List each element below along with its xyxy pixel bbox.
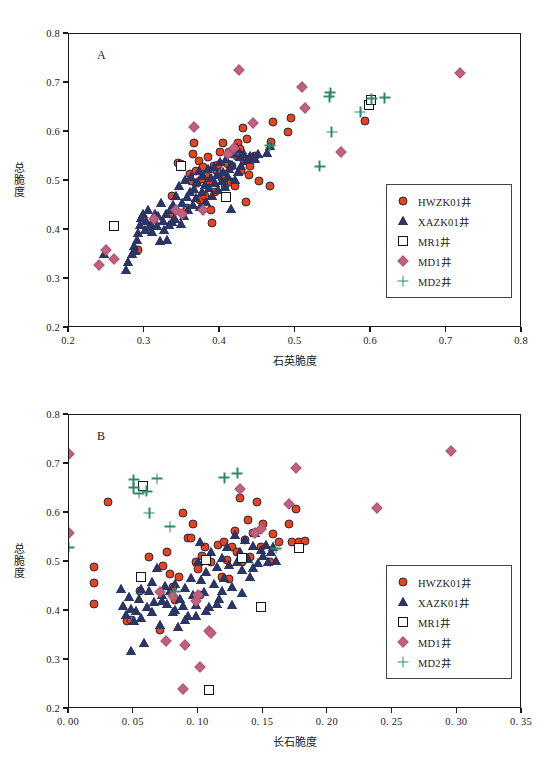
- plus-marker: [144, 508, 155, 519]
- triangle-marker: [194, 166, 204, 175]
- circle-marker: [259, 519, 268, 528]
- circle-marker: [265, 182, 274, 191]
- triangle-marker: [253, 149, 263, 158]
- circle-marker: [399, 578, 408, 587]
- triangle-marker: [156, 198, 166, 207]
- circle-marker: [249, 154, 258, 163]
- triangle-marker: [199, 587, 209, 596]
- legend-swatch: [395, 213, 411, 229]
- legend-item-md1[interactable]: MD1井: [395, 251, 502, 271]
- triangle-marker: [171, 191, 181, 200]
- diamond-marker: [255, 523, 266, 534]
- circle-marker: [205, 177, 214, 186]
- triangle-marker: [218, 167, 228, 176]
- y-axis-tick-label: 0.2: [30, 322, 60, 333]
- circle-marker: [287, 538, 296, 547]
- diamond-marker: [167, 591, 178, 602]
- legend-item-xazk01[interactable]: XAZK01井: [395, 211, 502, 231]
- triangle-marker: [139, 638, 149, 647]
- triangle-marker: [223, 172, 233, 181]
- legend-label: HWZK01井: [418, 194, 471, 209]
- diamond-marker: [296, 81, 307, 92]
- plus-marker: [128, 474, 139, 485]
- triangle-marker: [129, 241, 139, 250]
- triangle-marker: [235, 547, 245, 556]
- triangle-marker: [168, 607, 178, 616]
- circle-marker: [196, 195, 205, 204]
- triangle-marker: [250, 154, 260, 163]
- diamond-marker: [335, 146, 346, 157]
- triangle-marker: [170, 605, 180, 614]
- x-axis-tick: [445, 327, 446, 332]
- circle-marker: [267, 137, 276, 146]
- legend-swatch: [395, 193, 411, 209]
- circle-marker: [226, 177, 235, 186]
- circle-marker: [241, 535, 250, 544]
- diamond-marker: [397, 636, 408, 647]
- triangle-marker: [217, 586, 227, 595]
- triangle-marker: [209, 162, 219, 171]
- diamond-marker: [194, 661, 205, 672]
- triangle-marker: [180, 584, 190, 593]
- diamond-marker: [248, 118, 259, 129]
- panel-label-a: A: [97, 48, 106, 63]
- legend-label: XAZK01井: [418, 595, 469, 610]
- triangle-marker: [263, 557, 273, 566]
- triangle-marker: [265, 141, 275, 150]
- legend-item-xazk01[interactable]: XAZK01井: [395, 592, 502, 612]
- circle-marker: [133, 245, 142, 254]
- circle-marker: [89, 599, 98, 608]
- plus-marker: [325, 87, 336, 98]
- x-axis-tick: [218, 327, 219, 332]
- triangle-marker: [183, 205, 193, 214]
- circle-marker: [360, 117, 369, 126]
- triangle-marker: [178, 601, 188, 610]
- legend-item-mr1[interactable]: MR1井: [395, 231, 502, 251]
- circle-marker: [248, 528, 257, 537]
- circle-marker: [155, 625, 164, 634]
- circle-marker: [286, 114, 295, 123]
- legend-item-md2[interactable]: MD2井: [395, 271, 502, 291]
- legend-item-mr1[interactable]: MR1井: [395, 612, 502, 632]
- triangle-marker: [212, 599, 222, 608]
- legend-a: HWZK01井XAZK01井MR1井MD1井MD2井: [386, 184, 512, 298]
- x-axis-tick: [520, 708, 521, 713]
- triangle-marker: [147, 577, 157, 586]
- circle-marker: [194, 565, 203, 574]
- circle-marker: [199, 163, 208, 172]
- y-axis-tick: [63, 179, 68, 180]
- triangle-marker: [191, 193, 201, 202]
- triangle-marker: [200, 180, 210, 189]
- circle-marker: [208, 218, 217, 227]
- y-axis-tick-label: 0.8: [30, 28, 60, 39]
- diamond-marker: [160, 636, 171, 647]
- x-axis-tick-label: 0. 35: [510, 716, 532, 727]
- circle-marker: [200, 543, 209, 552]
- triangle-marker: [201, 567, 211, 576]
- legend-item-hwzk01[interactable]: HWZK01井: [395, 572, 502, 592]
- y-axis-tick-label: 0.4: [30, 605, 60, 616]
- square-marker: [136, 572, 146, 582]
- legend-item-md1[interactable]: MD1井: [395, 632, 502, 652]
- legend-item-hwzk01[interactable]: HWZK01井: [395, 191, 502, 211]
- y-axis-tick: [63, 326, 68, 327]
- circle-marker: [240, 157, 249, 166]
- triangle-marker: [220, 182, 230, 191]
- square-marker: [366, 95, 376, 105]
- plus-marker: [128, 482, 139, 493]
- triangle-marker: [248, 563, 258, 572]
- diamond-marker: [250, 527, 261, 538]
- circle-marker: [231, 181, 240, 190]
- circle-marker: [222, 555, 231, 564]
- plus-marker: [326, 127, 337, 138]
- triangle-marker: [144, 586, 154, 595]
- circle-marker: [256, 543, 265, 552]
- diamond-marker: [193, 590, 204, 601]
- circle-marker: [235, 494, 244, 503]
- y-axis-tick: [63, 511, 68, 512]
- circle-marker: [203, 153, 212, 162]
- circle-marker: [89, 579, 98, 588]
- circle-marker: [219, 139, 228, 148]
- legend-item-md2[interactable]: MD2井: [395, 652, 502, 672]
- circle-marker: [89, 563, 98, 572]
